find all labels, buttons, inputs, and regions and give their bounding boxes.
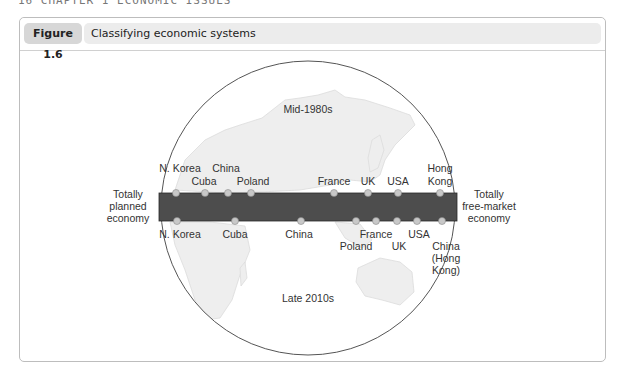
marker-dot [248, 190, 255, 197]
bottom-label-china-hk-3: Kong) [432, 264, 460, 276]
bottom-label-china: China [285, 228, 313, 240]
marker-dot [202, 190, 209, 197]
marker-dot [353, 218, 360, 225]
top-label-china: China [212, 162, 240, 174]
marker-dot [232, 218, 239, 225]
marker-dot [395, 190, 402, 197]
bottom-label-china-hk-2: (Hong [432, 252, 461, 264]
marker-dot [365, 190, 372, 197]
left-end-label: Totally planned economy [107, 188, 150, 224]
top-label-france: France [318, 175, 351, 187]
right-end-label: Totally free-market economy [462, 188, 516, 224]
top-label-uk: UK [361, 175, 376, 187]
top-label-usa: USA [387, 175, 409, 187]
top-label-hong: Hong [427, 162, 452, 174]
bottom-label-france: France [360, 228, 393, 240]
australia-landmass [356, 258, 414, 305]
top-label-poland: Poland [237, 175, 270, 187]
bottom-label-uk: UK [392, 240, 407, 252]
period-label-top: Mid-1980s [283, 103, 332, 115]
period-label-bottom: Late 2010s [282, 292, 334, 304]
bottom-label-cuba: Cuba [222, 228, 247, 240]
bottom-label-poland: Poland [340, 240, 373, 252]
svg-text:Totally: Totally [113, 188, 144, 200]
marker-dot [439, 218, 446, 225]
marker-dot [373, 218, 380, 225]
marker-dot [298, 218, 305, 225]
economic-systems-diagram: Mid-1980s Late 2010s Totally planned eco… [0, 0, 627, 378]
svg-text:economy: economy [107, 212, 150, 224]
marker-dot [394, 218, 401, 225]
planned-to-free-market-spectrum-bar [159, 193, 457, 221]
bottom-label-n-korea: N. Korea [159, 228, 201, 240]
top-label-cuba: Cuba [191, 175, 216, 187]
top-label-kong: Kong [428, 175, 453, 187]
svg-text:economy: economy [468, 212, 511, 224]
new-zealand-landmass [428, 292, 440, 312]
marker-dot [173, 190, 180, 197]
bottom-label-china-hk-1: China [432, 240, 460, 252]
svg-text:planned: planned [109, 200, 147, 212]
marker-dot [225, 190, 232, 197]
svg-text:Totally: Totally [474, 188, 505, 200]
svg-text:free-market: free-market [462, 200, 516, 212]
marker-dot [414, 218, 421, 225]
marker-dot [437, 190, 444, 197]
bottom-label-usa: USA [408, 228, 430, 240]
top-label-n-korea: N. Korea [159, 162, 201, 174]
marker-dot [174, 218, 181, 225]
marker-dot [331, 190, 338, 197]
